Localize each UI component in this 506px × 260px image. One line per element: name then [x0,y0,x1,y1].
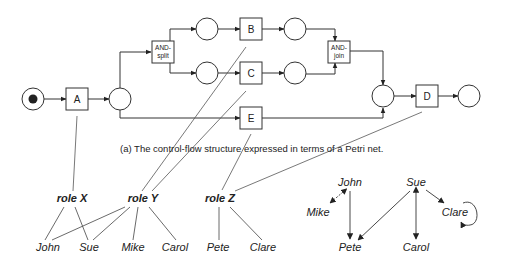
place-p3 [196,62,218,84]
role-member-lines [45,207,262,240]
sn-node-mike: Mike [306,206,329,218]
sn-node-pete: Pete [339,241,362,253]
transition-e-label: E [248,113,255,124]
place-p1 [109,88,131,110]
person-carol: Carol [162,241,189,253]
role-y-label: role Y [128,192,160,204]
place-p6 [372,85,394,107]
and-join-label-1: AND- [331,44,347,51]
and-split-label-1: AND- [155,44,171,51]
person-pete: Pete [207,241,230,253]
token-icon [29,95,38,104]
person-clare: Clare [250,241,276,253]
diagram-canvas: A AND- split B C E AND- join D (a) The c… [0,0,506,260]
sn-node-carol: Carol [403,241,430,253]
place-end [458,85,480,107]
figure-caption: (a) The control-flow structure expressed… [120,143,383,154]
role-x-label: role X [57,192,88,204]
transition-b-label: B [248,24,255,35]
transition-a-label: A [74,94,81,105]
transition-c-label: C [247,68,254,79]
person-mike: Mike [121,241,144,253]
person-john: John [35,241,60,253]
sn-node-sue: Sue [406,176,426,188]
sn-node-clare: Clare [442,206,468,218]
and-join-label-2: join [333,52,345,60]
place-p5 [284,62,306,84]
role-z-label: role Z [205,192,236,204]
sn-node-john: John [337,176,362,188]
place-p2 [196,18,218,40]
place-p4 [284,18,306,40]
person-sue: Sue [79,241,99,253]
and-split-label-2: split [157,52,169,60]
transition-d-label: D [423,91,430,102]
